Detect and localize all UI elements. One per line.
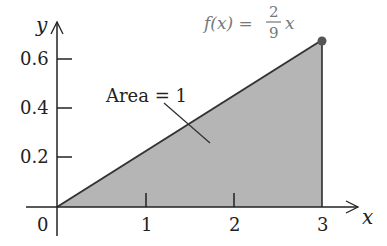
y-tick-label-0.2: 0.2 bbox=[20, 146, 49, 167]
x-tick-label-1: 1 bbox=[141, 214, 152, 235]
function-label-numerator: 2 bbox=[269, 3, 279, 21]
y-axis-label: y bbox=[35, 13, 48, 37]
y-tick-label-0.6: 0.6 bbox=[20, 48, 49, 69]
origin-label: 0 bbox=[37, 214, 48, 235]
function-label-denominator: 9 bbox=[269, 24, 279, 42]
y-tick-label-0.4: 0.4 bbox=[20, 97, 49, 118]
function-label-variable: x bbox=[285, 13, 295, 33]
area-annotation: Area = 1 bbox=[105, 85, 187, 106]
chart-canvas: y x 0.6 0.4 0.2 0 1 2 3 Area = 1 f(x) = … bbox=[0, 0, 387, 246]
x-tick-label-2: 2 bbox=[229, 214, 240, 235]
function-label-lhs: f(x) = bbox=[202, 13, 253, 33]
endpoint-dot bbox=[318, 37, 327, 46]
x-axis-label: x bbox=[362, 205, 373, 229]
x-tick-label-3: 3 bbox=[317, 214, 328, 235]
